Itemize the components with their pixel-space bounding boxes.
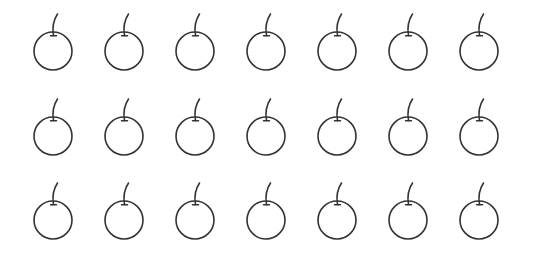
apple-icon bbox=[28, 178, 78, 242]
apple-icon bbox=[312, 94, 362, 158]
apple-icon bbox=[312, 9, 362, 73]
apple-icon bbox=[99, 9, 149, 73]
apple-icon bbox=[170, 178, 220, 242]
apple-icon bbox=[241, 9, 291, 73]
apple-grid bbox=[0, 0, 557, 256]
apple-icon bbox=[28, 94, 78, 158]
apple-icon bbox=[454, 178, 504, 242]
apple-icon bbox=[99, 178, 149, 242]
apple-icon bbox=[383, 94, 433, 158]
apple-icon bbox=[170, 9, 220, 73]
apple-icon bbox=[99, 94, 149, 158]
apple-icon bbox=[241, 94, 291, 158]
apple-icon bbox=[383, 9, 433, 73]
apple-icon bbox=[312, 178, 362, 242]
apple-icon bbox=[170, 94, 220, 158]
apple-icon bbox=[454, 94, 504, 158]
apple-icon bbox=[454, 9, 504, 73]
apple-icon bbox=[241, 178, 291, 242]
apple-icon bbox=[383, 178, 433, 242]
apple-icon bbox=[28, 9, 78, 73]
